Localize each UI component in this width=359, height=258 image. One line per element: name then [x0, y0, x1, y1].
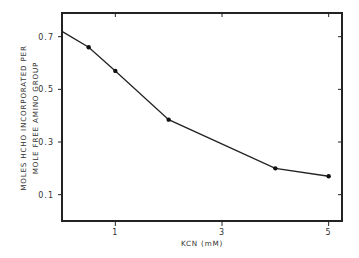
- data-point: [86, 45, 90, 49]
- data-point: [326, 174, 330, 178]
- y-axis-title-line-1: MOLES HCHO INCORPORATED PER: [19, 45, 28, 190]
- x-tick-label: 1: [112, 228, 118, 237]
- data-markers: [86, 45, 330, 178]
- data-line: [62, 31, 329, 176]
- y-tick-label: 0.1: [38, 191, 54, 200]
- data-point: [273, 166, 277, 170]
- axis-ticks: [58, 13, 342, 226]
- x-axis-title: KCN (mM): [181, 239, 223, 248]
- tick-labels: 1350.10.30.50.7: [38, 33, 331, 237]
- y-tick-label: 0.5: [38, 85, 54, 94]
- y-tick-label: 0.7: [38, 33, 54, 42]
- line-chart: 1350.10.30.50.7 KCN (mM) MOLES HCHO INCO…: [0, 0, 359, 258]
- plot-frame: [62, 13, 342, 221]
- y-axis-title-line-2: MOLE FREE AMINO GROUP: [31, 62, 40, 174]
- x-tick-label: 3: [219, 228, 225, 237]
- data-point: [113, 69, 117, 73]
- data-point: [166, 117, 170, 121]
- x-tick-label: 5: [326, 228, 332, 237]
- y-tick-label: 0.3: [38, 138, 54, 147]
